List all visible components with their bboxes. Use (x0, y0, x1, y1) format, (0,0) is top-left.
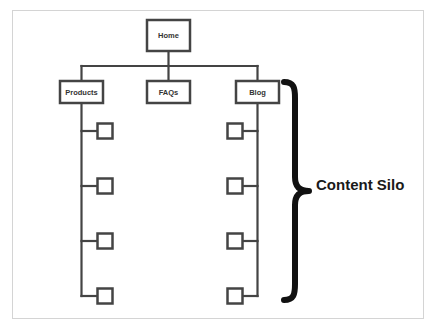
child-page-box (228, 234, 243, 249)
section-node-label: Products (65, 88, 98, 97)
child-page-box (98, 179, 113, 194)
child-page-box (228, 124, 243, 139)
child-page-box (228, 289, 243, 304)
site-tree-diagram: HomeProductsFAQsBlog (0, 0, 433, 330)
section-node-label: Blog (249, 88, 266, 97)
section-node-label: FAQs (159, 88, 179, 97)
child-page-box (98, 289, 113, 304)
home-node-label: Home (158, 31, 179, 40)
child-page-box (98, 234, 113, 249)
child-page-box (98, 124, 113, 139)
curly-brace-icon (284, 82, 309, 300)
content-silo-label: Content Silo (316, 176, 404, 193)
child-page-box (228, 179, 243, 194)
